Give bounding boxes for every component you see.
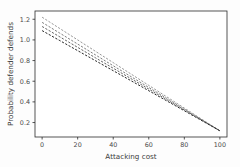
y-tick-label: 0.8 <box>20 57 30 65</box>
figure-canvas: 0204060801000.20.40.60.81.01.2Attacking … <box>0 0 240 167</box>
y-tick-label: 0.2 <box>20 119 30 127</box>
x-tick-label: 60 <box>145 141 153 149</box>
x-tick-label: 40 <box>109 141 117 149</box>
y-tick-label: 0.6 <box>20 78 30 86</box>
y-tick-label: 1.0 <box>20 36 30 44</box>
x-axis-label: Attacking cost <box>105 152 156 161</box>
y-axis-label: Probability defender defends <box>6 22 15 126</box>
x-tick-label: 100 <box>214 141 226 149</box>
y-tick-label: 0.4 <box>20 98 30 106</box>
x-tick-label: 20 <box>74 141 82 149</box>
x-tick-label: 80 <box>180 141 188 149</box>
chart-plot: 0204060801000.20.40.60.81.01.2Attacking … <box>0 0 240 167</box>
x-tick-label: 0 <box>40 141 44 149</box>
y-tick-label: 1.2 <box>20 16 30 24</box>
